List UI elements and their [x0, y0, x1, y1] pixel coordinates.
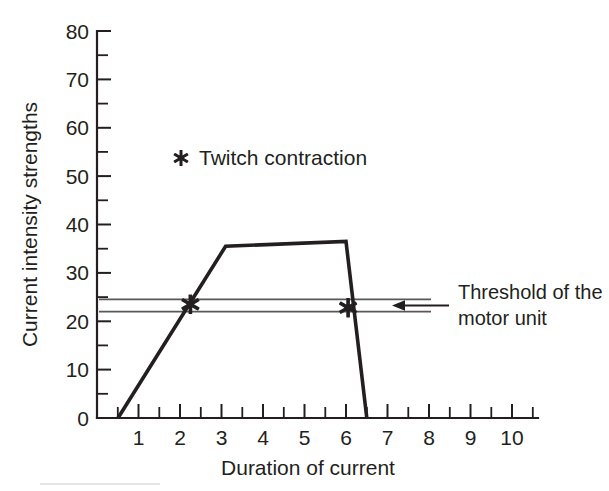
- y-tick-label: 0: [77, 407, 89, 430]
- x-tick-label: 1: [133, 426, 145, 449]
- scan-artifact: [40, 483, 160, 485]
- current-intensity-line-chart: 0 10 20 30 40 50 60 70 80 Current intens…: [0, 0, 609, 491]
- x-tick-label: 10: [500, 426, 523, 449]
- y-axis-title: Current intensity strengths: [18, 102, 41, 347]
- y-tick-label: 80: [66, 20, 89, 43]
- y-tick-label: 70: [66, 68, 89, 91]
- x-tick-label: 5: [299, 426, 311, 449]
- x-tick-label: 2: [174, 426, 186, 449]
- chart-figure: 0 10 20 30 40 50 60 70 80 Current intens…: [0, 0, 609, 491]
- y-tick-label: 10: [66, 358, 89, 381]
- x-tick-label: 6: [340, 426, 352, 449]
- y-tick-label: 20: [66, 310, 89, 333]
- x-tick-label: 9: [465, 426, 477, 449]
- x-axis-title: Duration of current: [221, 456, 395, 479]
- y-tick-label: 40: [66, 213, 89, 236]
- y-tick-label: 60: [66, 116, 89, 139]
- annotation-line-2: motor unit: [458, 307, 547, 329]
- x-tick-label: 3: [216, 426, 228, 449]
- x-tick-label: 8: [423, 426, 435, 449]
- legend-label-twitch-contraction: Twitch contraction: [199, 146, 367, 169]
- x-tick-label: 7: [382, 426, 394, 449]
- y-tick-label: 50: [66, 165, 89, 188]
- legend: Twitch contraction: [173, 146, 367, 169]
- x-tick-label: 4: [257, 426, 269, 449]
- y-axis-tick-labels: 0 10 20 30 40 50 60 70 80: [66, 20, 89, 430]
- y-tick-label: 30: [66, 261, 89, 284]
- annotation-line-1: Threshold of the: [458, 281, 603, 303]
